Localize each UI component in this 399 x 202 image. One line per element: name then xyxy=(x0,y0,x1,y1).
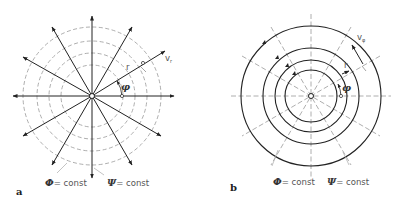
panel-label-a: a xyxy=(16,186,23,197)
potential-label-a: Φ= const xyxy=(45,177,87,188)
angle-label-b: φ xyxy=(342,82,351,93)
leader-stream-a xyxy=(94,168,104,175)
radius-label-a: r xyxy=(126,61,130,72)
leader-potential-a xyxy=(57,163,67,173)
origin-point-b xyxy=(309,94,314,99)
panel-a: φ r vr Φ= const Ψ= const a xyxy=(13,16,174,197)
stream-label-b: Ψ= const xyxy=(327,176,370,187)
velocity-label-b: vφ xyxy=(357,31,365,44)
leader-stream-b xyxy=(343,152,349,165)
potential-label-b: Φ= const xyxy=(273,176,315,187)
angle-point-a xyxy=(120,94,123,97)
radius-arrow-b xyxy=(342,71,349,74)
radius-point-a xyxy=(141,61,144,64)
angle-label-a: φ xyxy=(121,81,130,92)
radius-label-b: r xyxy=(344,59,348,70)
origin-point-a xyxy=(90,94,95,99)
angle-point-b xyxy=(339,94,342,97)
velocity-label-a: vr xyxy=(165,52,173,64)
panel-b: φ r vφ Φ= const Ψ= const b xyxy=(230,14,391,193)
panel-label-b: b xyxy=(230,182,237,193)
streamline-arrows-b xyxy=(262,40,296,75)
stream-label-a: Ψ= const xyxy=(107,177,150,188)
leader-potential-b xyxy=(272,150,278,166)
flow-diagram: φ r vr Φ= const Ψ= const a xyxy=(0,0,399,202)
radius-tick-b xyxy=(362,66,366,71)
